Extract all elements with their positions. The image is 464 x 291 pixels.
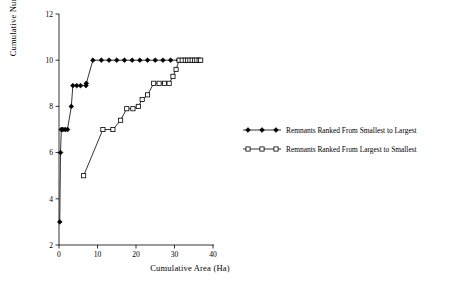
y-tick-label: 2 bbox=[49, 241, 53, 250]
series-smallest-to-largest bbox=[57, 58, 202, 225]
data-point bbox=[145, 58, 150, 63]
legend-marker bbox=[246, 128, 251, 133]
x-tick-label: 10 bbox=[94, 250, 102, 259]
x-tick-label: 30 bbox=[171, 250, 179, 259]
data-point bbox=[122, 58, 127, 63]
data-point bbox=[199, 58, 203, 62]
data-point bbox=[111, 127, 115, 131]
data-point bbox=[57, 220, 62, 225]
data-point bbox=[101, 127, 105, 131]
data-point bbox=[145, 93, 149, 97]
legend-marker bbox=[260, 147, 264, 151]
y-tick-label: 8 bbox=[49, 102, 53, 111]
data-point bbox=[82, 174, 86, 178]
data-point bbox=[137, 58, 142, 63]
data-point bbox=[69, 104, 74, 109]
legend-label-largest-to-smallest: Remnants Ranked From Largest to Smallest bbox=[286, 145, 417, 154]
data-point bbox=[174, 67, 178, 71]
series-line bbox=[84, 60, 201, 176]
data-point bbox=[99, 58, 104, 63]
data-point bbox=[168, 58, 173, 63]
data-point bbox=[131, 107, 135, 111]
x-axis-title: Cumulative Area (Ha) bbox=[110, 263, 270, 273]
data-point bbox=[162, 81, 166, 85]
data-point bbox=[125, 107, 129, 111]
x-tick-label: 20 bbox=[132, 250, 140, 259]
x-tick-label: 0 bbox=[57, 250, 61, 259]
data-point bbox=[140, 97, 144, 101]
y-tick-label: 12 bbox=[45, 10, 53, 19]
data-point bbox=[171, 74, 175, 78]
data-point bbox=[136, 104, 140, 108]
data-point bbox=[161, 58, 166, 63]
legend-label-smallest-to-largest: Remnants Ranked From Smallest to Largest bbox=[286, 126, 417, 135]
data-point bbox=[152, 81, 156, 85]
data-point bbox=[119, 118, 123, 122]
legend-marker bbox=[274, 128, 279, 133]
data-point bbox=[167, 81, 171, 85]
y-tick-label: 4 bbox=[49, 195, 53, 204]
y-axis-title: Cumulative Number of Species bbox=[8, 0, 18, 70]
y-tick-label: 6 bbox=[49, 148, 53, 157]
legend-marker bbox=[246, 147, 250, 151]
data-point bbox=[90, 58, 95, 63]
chart-figure: 24681012010203040 Cumulative Number of S… bbox=[0, 0, 464, 291]
x-tick-label: 40 bbox=[209, 250, 217, 259]
series-largest-to-smallest bbox=[82, 58, 203, 178]
data-point bbox=[153, 58, 158, 63]
data-point bbox=[107, 58, 112, 63]
data-point bbox=[114, 58, 119, 63]
legend-marker bbox=[274, 147, 278, 151]
y-tick-label: 10 bbox=[45, 56, 53, 65]
legend bbox=[243, 128, 281, 151]
data-point bbox=[157, 81, 161, 85]
data-point bbox=[78, 83, 83, 88]
legend-marker bbox=[260, 128, 265, 133]
data-point bbox=[130, 58, 135, 63]
